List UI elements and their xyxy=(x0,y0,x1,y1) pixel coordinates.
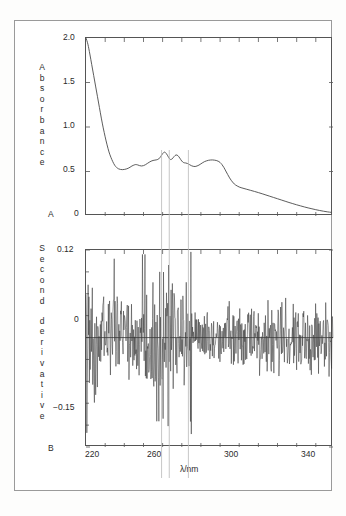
reference-lines-overlay xyxy=(0,0,346,516)
figure-root: Absorbance 2.0 1.5 1.0 0.5 0 A xyxy=(0,0,346,516)
